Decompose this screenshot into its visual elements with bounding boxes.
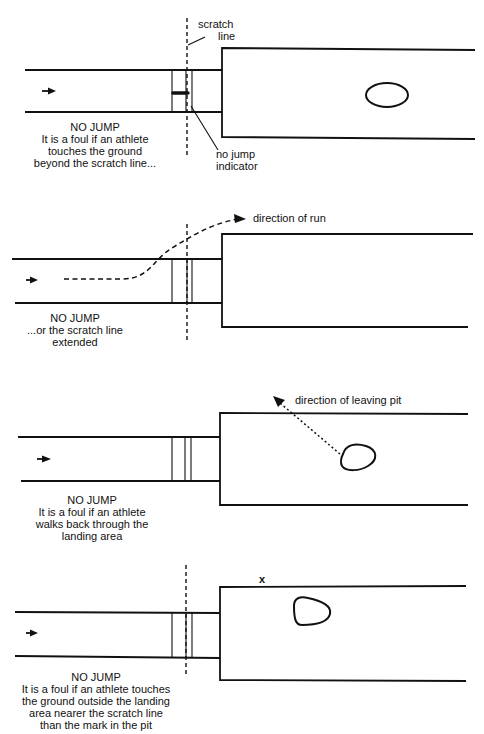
landing-mark-blob [294,597,330,625]
runway [12,259,222,303]
run-direction-arrow-icon [26,277,38,284]
caption-title: NO JUMP [71,671,121,683]
direction-of-leaving-pit-label: direction of leaving pit [295,394,401,406]
caption-title: NO JUMP [67,494,117,506]
direction-of-run-arrowhead-icon [234,214,246,223]
landing-pit [220,413,468,505]
caption-line: extended [52,336,97,348]
caption-line: It is a foul if an athlete [38,506,145,518]
landing-mark-oval [366,83,408,107]
scratch-line-leader [188,37,205,45]
take-off-board [172,612,192,657]
caption-line: landing area [62,530,123,542]
no-jump-indicator-label-1: no jump [216,148,255,160]
landing-mark-blob [341,445,375,471]
caption-line: It is a foul if an athlete touches [22,683,171,695]
take-off-board [172,70,192,112]
landing-pit [222,48,475,139]
caption-title: NO JUMP [70,121,120,133]
direction-of-leaving-pit-arrowhead-icon [273,396,285,407]
caption-line: It is a foul if an athlete [41,133,148,145]
panel-beyond-scratch-line: scratch line no jump indicator NO JUMP I… [25,18,475,172]
panel-scratch-line-extended: direction of run NO JUMP ...or the scrat… [12,212,473,348]
caption-line: touches the ground [48,145,142,157]
caption: NO JUMP It is a foul if an athlete touch… [22,671,171,731]
landing-pit [220,586,466,681]
long-jump-foul-diagrams: scratch line no jump indicator NO JUMP I… [0,0,484,734]
outside-touch-mark: x [259,573,266,585]
direction-of-run-label: direction of run [253,212,326,224]
take-off-board [172,259,192,303]
caption-line: area nearer the scratch line [29,707,163,719]
caption-line: the ground outside the landing [22,695,170,707]
caption: NO JUMP It is a foul if an athlete walks… [35,494,149,542]
runway [15,612,220,658]
run-direction-arrow-icon [42,88,56,95]
caption-line: ...or the scratch line [27,324,123,336]
direction-of-run-path [64,219,238,279]
scratch-line-label-1: scratch [198,18,233,30]
caption-line: walks back through the [35,518,149,530]
panel-walks-back: direction of leaving pit NO JUMP It is a… [18,394,468,542]
panel-touches-outside-landing: x NO JUMP It is a foul if an athlete tou… [15,565,466,731]
run-direction-arrow-icon [26,630,38,637]
take-off-board [172,437,191,481]
caption: NO JUMP It is a foul if an athlete touch… [34,121,156,169]
caption-line: beyond the scratch line... [34,157,156,169]
run-direction-arrow-icon [37,456,51,463]
landing-pit [222,234,473,327]
direction-of-leaving-pit-path [280,403,340,454]
scratch-line-label-2: line [218,30,235,42]
no-jump-indicator-label-2: indicator [216,160,258,172]
caption-title: NO JUMP [50,312,100,324]
caption: NO JUMP ...or the scratch line extended [27,312,123,348]
caption-line: than the mark in the pit [40,719,152,731]
